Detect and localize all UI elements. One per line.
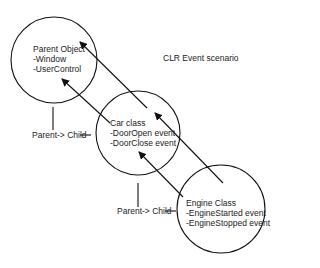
engine-class-text: Engine Class -EngineStarted event -Engin…	[186, 198, 270, 228]
node-line: -EngineStopped event	[186, 218, 270, 228]
node-line: -UserControl	[33, 64, 85, 74]
node-line: -Window	[33, 54, 85, 64]
relation-label-car-engine: Parent-> Child	[117, 206, 172, 216]
parent-object-text: Parent Object -Window -UserControl	[33, 44, 85, 74]
arrow-car-to-parent-1	[80, 42, 147, 108]
arrow-car-to-parent-2	[62, 79, 110, 123]
node-line: -DoorClose event	[110, 138, 176, 148]
car-class-text: Car class -DoorOpen event -DoorClose eve…	[110, 118, 176, 148]
node-line: -DoorOpen event	[110, 128, 176, 138]
node-title: Car class	[110, 118, 176, 128]
node-title: Engine Class	[186, 198, 270, 208]
node-title: Parent Object	[33, 44, 85, 54]
diagram-title: CLR Event scenario	[163, 53, 239, 63]
node-line: -EngineStarted event	[186, 208, 270, 218]
relation-label-parent-car: Parent-> Child	[32, 130, 87, 140]
